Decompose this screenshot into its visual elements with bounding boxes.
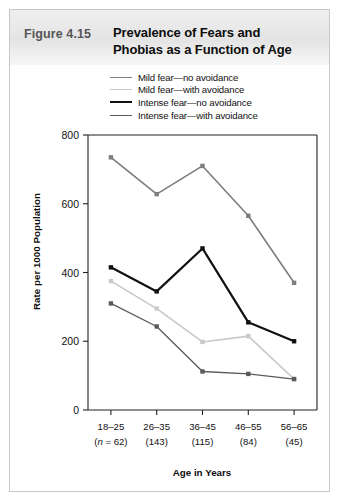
data-point-marker bbox=[155, 324, 159, 328]
data-point-marker bbox=[109, 155, 113, 159]
x-tick-label: 46–55 bbox=[235, 421, 262, 432]
x-tick-label: 36–45 bbox=[189, 421, 216, 432]
plot-area: 8006004002000 18–25(n = 62)26–35(143)36–… bbox=[10, 10, 329, 491]
x-tick-label: 26–35 bbox=[143, 421, 170, 432]
x-tick-label: 18–25 bbox=[98, 421, 125, 432]
data-point-marker bbox=[200, 164, 204, 168]
data-point-marker bbox=[155, 192, 159, 196]
x-tick-sublabel: (143) bbox=[145, 436, 167, 447]
x-tick-sublabel: (115) bbox=[192, 436, 214, 447]
x-axis-ticks bbox=[111, 410, 294, 415]
data-point-marker bbox=[292, 339, 296, 343]
data-series-layer bbox=[109, 155, 297, 381]
series-line-0 bbox=[111, 157, 294, 282]
x-axis-tick-labels: 18–25(n = 62)26–35(143)36–45(115)46–55(8… bbox=[94, 421, 307, 447]
line-chart: 8006004002000 18–25(n = 62)26–35(143)36–… bbox=[10, 10, 329, 491]
data-point-marker bbox=[109, 265, 113, 269]
data-point-marker bbox=[246, 320, 250, 324]
data-point-marker bbox=[200, 369, 204, 373]
x-tick-sublabel: (n = 62) bbox=[94, 436, 127, 447]
data-point-marker bbox=[292, 377, 296, 381]
figure-container: Figure 4.15 Prevalence of Fears and Phob… bbox=[0, 0, 339, 501]
data-point-marker bbox=[155, 289, 159, 293]
data-point-marker bbox=[246, 334, 250, 338]
series-line-2 bbox=[111, 248, 294, 341]
data-point-marker bbox=[200, 340, 204, 344]
data-point-marker bbox=[155, 306, 159, 310]
data-point-marker bbox=[292, 281, 296, 285]
y-axis-title: Rate per 1000 Population bbox=[31, 193, 42, 310]
x-axis-title: Age in Years bbox=[173, 467, 232, 478]
y-tick-label: 200 bbox=[61, 335, 79, 347]
y-axis-ticks: 8006004002000 bbox=[61, 129, 88, 416]
y-tick-label: 600 bbox=[61, 198, 79, 210]
figure-card: Figure 4.15 Prevalence of Fears and Phob… bbox=[9, 9, 330, 492]
y-tick-label: 800 bbox=[61, 129, 79, 141]
y-tick-label: 0 bbox=[73, 404, 79, 416]
data-point-marker bbox=[246, 214, 250, 218]
data-point-marker bbox=[109, 301, 113, 305]
x-tick-label: 56–65 bbox=[281, 421, 308, 432]
data-point-marker bbox=[109, 279, 113, 283]
y-tick-label: 400 bbox=[61, 267, 79, 279]
data-point-marker bbox=[200, 246, 204, 250]
x-tick-sublabel: (45) bbox=[286, 436, 303, 447]
x-tick-sublabel: (84) bbox=[240, 436, 257, 447]
data-point-marker bbox=[246, 372, 250, 376]
